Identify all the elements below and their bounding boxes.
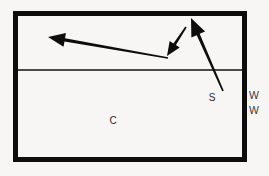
diagram-svg: S C W W — [0, 0, 269, 176]
label-w-bottom: W — [249, 104, 259, 116]
label-s: S — [209, 92, 216, 103]
figure-background — [0, 0, 269, 176]
diagram-canvas: S C W W — [0, 0, 269, 176]
label-c: C — [109, 115, 116, 126]
label-w-top: W — [249, 89, 259, 101]
